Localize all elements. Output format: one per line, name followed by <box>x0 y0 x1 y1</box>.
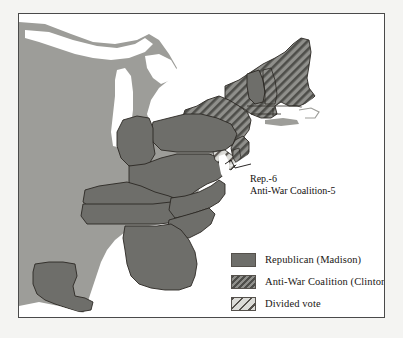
maryland-delaware-split-callout: Rep.-6 Anti-War Coalition-5 <box>250 173 336 196</box>
map-plate-frame: Rep.-6 Anti-War Coalition-5 Republican (… <box>18 13 385 318</box>
legend-label-anti-war-coalition: Anti-War Coalition (Clinton) <box>265 276 385 287</box>
callout-line-2: Anti-War Coalition-5 <box>250 185 336 197</box>
map-page: Rep.-6 Anti-War Coalition-5 Republican (… <box>0 0 403 338</box>
legend-item-divided-vote[interactable]: Divided vote <box>231 294 383 313</box>
legend-swatch-anti-war-coalition <box>231 275 256 289</box>
callout-line-1: Rep.-6 <box>250 173 336 185</box>
legend-swatch-republican <box>231 253 256 267</box>
legend-label-republican: Republican (Madison) <box>265 254 361 265</box>
legend-item-anti-war-coalition[interactable]: Anti-War Coalition (Clinton) <box>231 272 383 291</box>
legend-label-divided-vote: Divided vote <box>265 298 321 309</box>
legend-swatch-divided-vote <box>231 297 256 311</box>
map-legend: Republican (Madison) Anti-War Coalition … <box>231 250 383 316</box>
legend-item-republican[interactable]: Republican (Madison) <box>231 250 383 269</box>
region-ohio[interactable] <box>117 116 155 168</box>
